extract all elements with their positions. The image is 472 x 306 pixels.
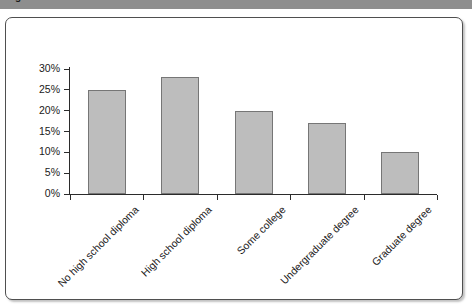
y-axis-tick [64,69,69,70]
bar [88,90,126,194]
y-axis-tick [64,89,69,90]
y-axis-tick-label: 5% [20,167,60,178]
x-axis-tick [364,195,365,200]
y-axis-tick-label: 25% [20,84,60,95]
x-axis-tick [70,195,71,200]
y-axis-tick [64,110,69,111]
figure-caption-text: Figure 12 Level of Parent Education [6,0,180,2]
y-axis-tick-label: 30% [20,63,60,74]
bar [308,123,346,194]
y-axis-tick-label: 15% [20,126,60,137]
x-axis-tick [217,195,218,200]
x-axis-tick [143,195,144,200]
x-axis-category-label: Undergraduate degree [278,204,360,286]
x-axis-category-label: No high school diploma [56,204,141,289]
figure-card: 0%5%10%15%20%25%30% No high school diplo… [5,17,463,300]
bar [235,111,273,194]
y-axis-tick-label: 20% [20,105,60,116]
y-axis-tick-label: 0% [20,188,60,199]
bar [381,152,419,194]
y-axis-tick [64,152,69,153]
x-axis-category-label: Graduate degree [370,204,434,268]
x-axis-category-label: High school diploma [139,204,213,278]
x-axis-line [69,194,437,195]
x-axis-category-label: Some college [235,204,287,256]
caption-spacer [0,9,472,17]
y-axis-tick [64,131,69,132]
x-axis-tick [437,195,438,200]
bar [161,77,199,194]
y-axis-tick-label: 10% [20,146,60,157]
figure-caption-bar: Figure 12 Level of Parent Education [0,0,472,9]
x-axis-tick [290,195,291,200]
y-axis-tick [64,173,69,174]
bar-chart: 0%5%10%15%20%25%30% No high school diplo… [6,18,462,299]
y-axis-line [69,67,70,195]
y-axis-tick [64,194,69,195]
